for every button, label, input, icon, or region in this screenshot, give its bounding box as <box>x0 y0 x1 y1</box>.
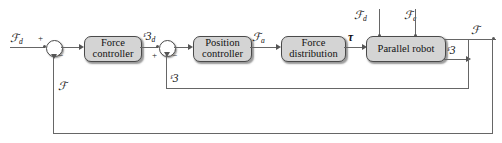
signal-label-output-force: ℱ <box>471 23 480 37</box>
signal-label-force-feedback: ℱ <box>58 79 67 93</box>
block-force-distribution-line2: distribution <box>289 49 337 60</box>
wire-pose-feedback-horizontal <box>166 88 469 89</box>
signal-label-output-pose: ᵋ3 <box>447 44 455 56</box>
wire-output-force <box>444 39 496 40</box>
signal-label-reference-force: ℱd <box>10 31 23 46</box>
wire-force-feedback-vertical-right <box>492 39 493 134</box>
block-diagram-canvas: ℱd + − Force controller ᵋ3d + − Position… <box>0 0 502 143</box>
force-junction-plus-sign: + <box>38 33 43 43</box>
wire-force-feedback-vertical-left <box>53 56 54 133</box>
arrowhead-force-junction-feedback <box>51 54 57 59</box>
arrowhead-position-junction-feedback <box>164 52 170 57</box>
signal-label-joint-torque: τ <box>348 31 353 43</box>
signal-label-actuation-force: ℱa <box>252 30 265 45</box>
wire-force-feedback-horizontal <box>53 133 493 134</box>
block-position-controller[interactable]: Position controller <box>193 36 252 62</box>
block-parallel-robot-line1: Parallel robot <box>378 44 435 55</box>
force-junction-minus-sign: − <box>58 50 63 60</box>
signal-label-pose-feedback: ᵋ3 <box>170 72 178 84</box>
wire-external-force <box>415 9 416 36</box>
block-force-controller[interactable]: Force controller <box>84 36 142 62</box>
block-position-controller-line2: controller <box>202 49 243 60</box>
wire-pose-feedback-vertical-left <box>166 54 167 88</box>
wire-disturbance-force <box>379 9 380 36</box>
signal-label-desired-pose: ᵋ3d <box>143 30 155 44</box>
signal-label-disturbance-force: ℱd <box>354 8 367 23</box>
wire-reference-force <box>10 47 45 48</box>
position-junction-minus-sign: − <box>172 50 177 60</box>
wire-force-error <box>61 47 81 48</box>
position-junction-plus-sign: + <box>152 50 157 60</box>
block-force-controller-line2: controller <box>93 49 134 60</box>
wire-joint-torque <box>344 47 364 48</box>
block-parallel-robot[interactable]: Parallel robot <box>366 36 446 62</box>
block-force-distribution[interactable]: Force distribution <box>281 36 346 62</box>
wire-actuation-force <box>250 47 278 48</box>
wire-pose-feedback-vertical-right <box>468 39 469 89</box>
wire-output-pose <box>444 59 468 60</box>
